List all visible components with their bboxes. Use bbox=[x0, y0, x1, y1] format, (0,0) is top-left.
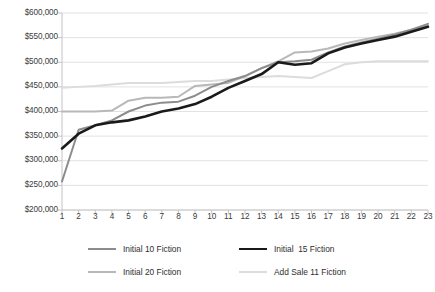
line-chart: $600,000$550,000$500,000$450,000$400,000… bbox=[0, 0, 435, 292]
x-axis-tick-label: 10 bbox=[203, 212, 221, 221]
x-axis-tick-label: 4 bbox=[103, 212, 121, 221]
x-axis-tick-label: 16 bbox=[303, 212, 321, 221]
x-axis-tick-label: 18 bbox=[336, 212, 354, 221]
chart-legend: Initial 10 Fiction Initial 15 Fiction In… bbox=[0, 238, 435, 292]
legend-label-initial-10-fiction: Initial 10 Fiction bbox=[123, 244, 181, 254]
legend-label-initial-15-fiction: Initial 15 Fiction bbox=[274, 244, 335, 254]
legend-label-initial-20-fiction: Initial 20 Fiction bbox=[123, 267, 181, 277]
x-axis-tick-label: 12 bbox=[236, 212, 254, 221]
x-axis-tick-label: 5 bbox=[120, 212, 138, 221]
x-axis-tick-label: 19 bbox=[352, 212, 370, 221]
x-axis-tick-label: 21 bbox=[386, 212, 404, 221]
x-axis-tick-label: 9 bbox=[186, 212, 204, 221]
x-axis-tick-label: 15 bbox=[286, 212, 304, 221]
x-axis-tick-label: 23 bbox=[419, 212, 435, 221]
legend-item-initial-10-fiction[interactable]: Initial 10 Fiction bbox=[88, 242, 181, 256]
x-axis-tick-label: 7 bbox=[153, 212, 171, 221]
legend-swatch-add-sale-11-fiction bbox=[239, 271, 267, 273]
x-axis-tick-label: 20 bbox=[369, 212, 387, 221]
x-axis-tick-label: 3 bbox=[86, 212, 104, 221]
x-axis-tick-label: 14 bbox=[269, 212, 287, 221]
x-axis-labels: 1234567891011121314151617181920212223 bbox=[0, 0, 435, 235]
x-axis-tick-label: 13 bbox=[253, 212, 271, 221]
legend-label-add-sale-11-fiction: Add Sale 11 Fiction bbox=[274, 267, 346, 277]
x-axis-tick-label: 11 bbox=[219, 212, 237, 221]
x-axis-tick-label: 22 bbox=[402, 212, 420, 221]
legend-item-add-sale-11-fiction[interactable]: Add Sale 11 Fiction bbox=[239, 265, 346, 279]
legend-item-initial-20-fiction[interactable]: Initial 20 Fiction bbox=[88, 265, 181, 279]
x-axis-tick-label: 2 bbox=[70, 212, 88, 221]
x-axis-tick-label: 1 bbox=[53, 212, 71, 221]
x-axis-tick-label: 8 bbox=[169, 212, 187, 221]
x-axis-tick-label: 6 bbox=[136, 212, 154, 221]
x-axis-tick-label: 17 bbox=[319, 212, 337, 221]
legend-item-initial-15-fiction[interactable]: Initial 15 Fiction bbox=[239, 242, 335, 256]
legend-swatch-initial-10-fiction bbox=[88, 248, 116, 250]
legend-swatch-initial-15-fiction bbox=[239, 248, 267, 250]
legend-swatch-initial-20-fiction bbox=[88, 271, 116, 273]
